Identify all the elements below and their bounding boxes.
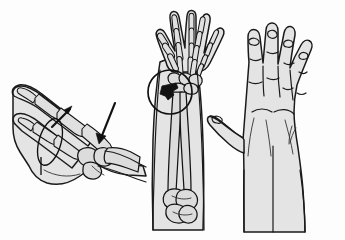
elbow-joint-bones <box>163 189 197 223</box>
figure-canvas <box>0 0 345 240</box>
lateral-carpal-bone-3 <box>83 162 102 179</box>
anatomy-figure <box>0 0 345 240</box>
